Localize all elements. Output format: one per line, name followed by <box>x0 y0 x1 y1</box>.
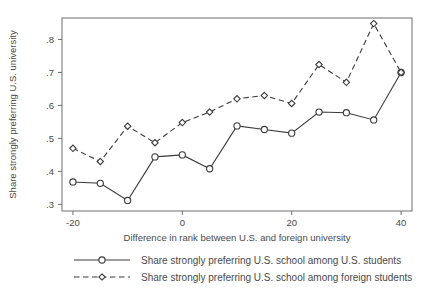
y-tick-label: .7 <box>46 67 54 78</box>
data-point-marker <box>179 152 185 158</box>
x-tick-label: 0 <box>180 217 185 228</box>
data-point-marker <box>289 130 295 136</box>
figure-background <box>0 0 432 291</box>
y-axis-title: Share strongly preferring U.S. universit… <box>7 30 18 199</box>
data-point-marker <box>70 179 76 185</box>
data-point-marker <box>316 109 322 115</box>
legend-label-foreign-students: Share strongly preferring U.S. school am… <box>141 272 412 283</box>
x-axis-title: Difference in rank between U.S. and fore… <box>124 232 351 243</box>
data-point-marker <box>371 117 377 123</box>
x-tick-label: 20 <box>286 217 297 228</box>
y-tick-label: .6 <box>46 100 54 111</box>
y-tick-label: .4 <box>46 166 54 177</box>
chart-figure: .3.4.5.6.7.8 -2002040 Share strongly pre… <box>0 0 432 291</box>
data-point-marker <box>207 166 213 172</box>
data-point-marker <box>234 123 240 129</box>
x-tick-label: 40 <box>396 217 407 228</box>
data-point-marker <box>343 110 349 116</box>
data-point-marker <box>97 180 103 186</box>
y-tick-label: .8 <box>46 34 54 45</box>
data-point-marker <box>152 154 158 160</box>
y-tick-label: .3 <box>46 199 54 210</box>
y-tick-label: .5 <box>46 133 54 144</box>
x-tick-label: -20 <box>66 217 80 228</box>
legend-label-us-students: Share strongly preferring U.S. school am… <box>141 255 401 266</box>
data-point-marker <box>261 126 267 132</box>
data-point-marker <box>125 197 131 203</box>
legend-marker-circle <box>99 257 105 263</box>
